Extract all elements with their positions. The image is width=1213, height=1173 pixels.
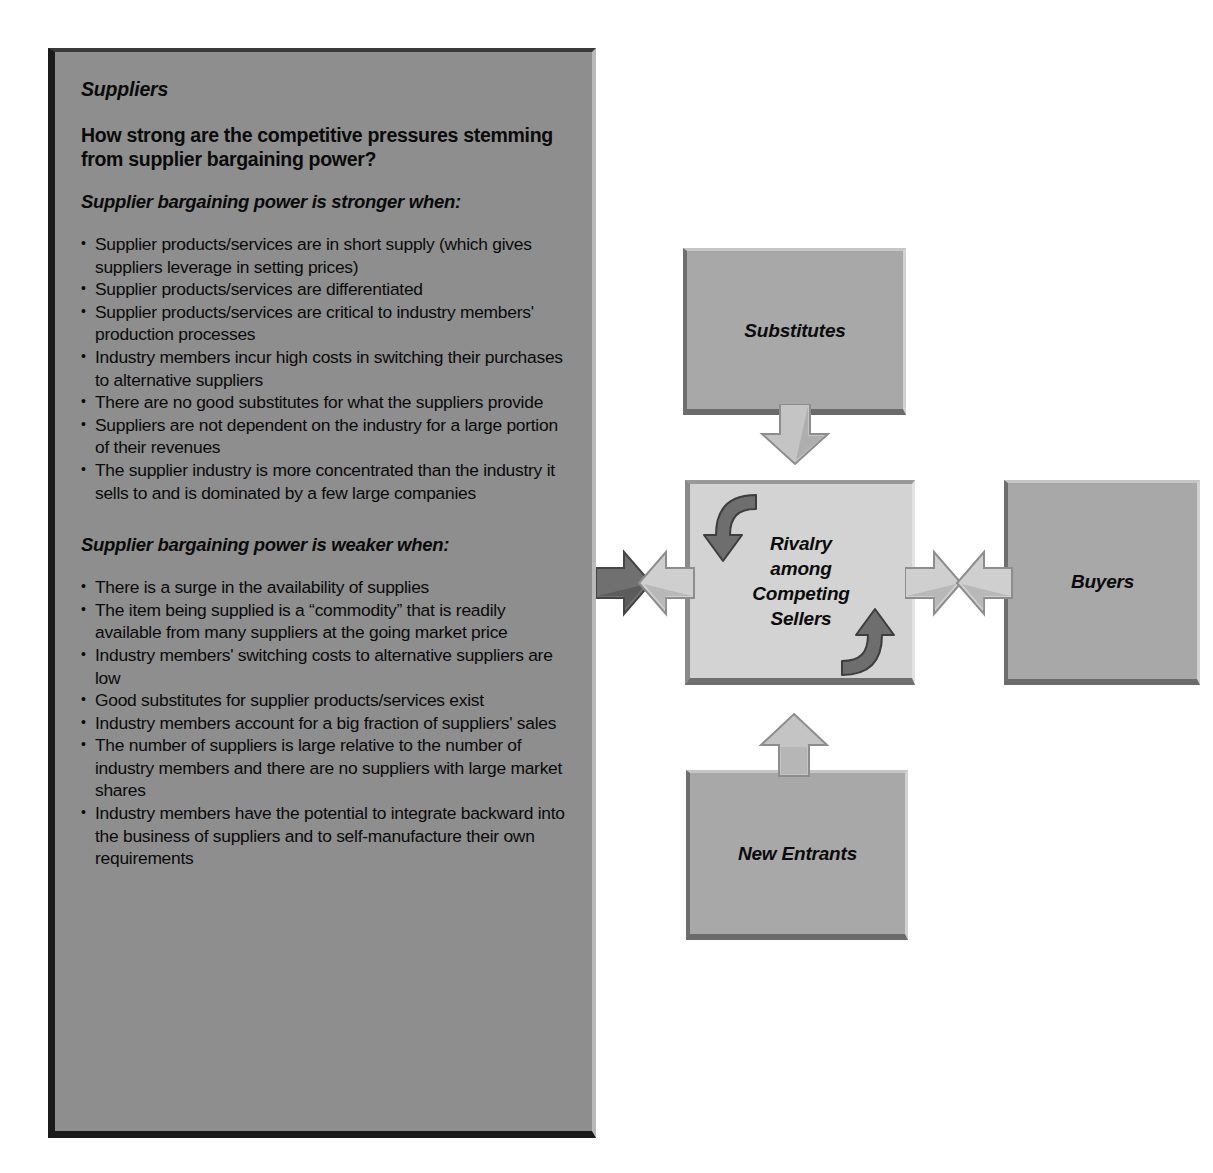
- box-substitutes: Substitutes: [683, 248, 906, 415]
- list-item: There is a surge in the availability of …: [81, 576, 570, 599]
- list-item: The item being supplied is a “commodity”…: [81, 599, 570, 644]
- panel-title: Suppliers: [81, 78, 570, 101]
- list-item: Supplier products/services are critical …: [81, 301, 570, 346]
- list-item: Industry members account for a big fract…: [81, 712, 570, 735]
- stronger-heading: Supplier bargaining power is stronger wh…: [81, 191, 570, 213]
- list-item: Industry members' switching costs to alt…: [81, 644, 570, 689]
- list-item: The supplier industry is more concentrat…: [81, 459, 570, 504]
- box-rivalry-label: Rivalry among Competing Sellers: [746, 531, 856, 631]
- suppliers-panel: Suppliers How strong are the competitive…: [48, 48, 596, 1138]
- box-buyers: Buyers: [1004, 480, 1200, 685]
- box-newentrants: New Entrants: [686, 770, 908, 940]
- weaker-heading: Supplier bargaining power is weaker when…: [81, 534, 570, 556]
- box-newentrants-label: New Entrants: [738, 841, 857, 866]
- list-item: Industry members incur high costs in swi…: [81, 346, 570, 391]
- list-item: Suppliers are not dependent on the indus…: [81, 414, 570, 459]
- list-item: Supplier products/services are in short …: [81, 233, 570, 278]
- stronger-list: Supplier products/services are in short …: [81, 233, 570, 504]
- list-item: Good substitutes for supplier products/s…: [81, 689, 570, 712]
- list-item: Supplier products/services are different…: [81, 278, 570, 301]
- panel-question: How strong are the competitive pressures…: [81, 123, 570, 171]
- list-item: Industry members have the potential to i…: [81, 802, 570, 870]
- arrow-newentrants-to-rivalry-icon: [757, 712, 831, 778]
- arrow-rivalry-to-suppliers-icon: [637, 548, 695, 618]
- list-item: The number of suppliers is large relativ…: [81, 734, 570, 802]
- box-substitutes-label: Substitutes: [744, 318, 845, 343]
- list-item: There are no good substitutes for what t…: [81, 391, 570, 414]
- arrow-substitutes-to-rivalry-icon: [758, 404, 832, 466]
- box-buyers-label: Buyers: [1071, 569, 1134, 594]
- weaker-list: There is a surge in the availability of …: [81, 576, 570, 870]
- arrow-buyers-to-rivalry-icon: [955, 548, 1013, 618]
